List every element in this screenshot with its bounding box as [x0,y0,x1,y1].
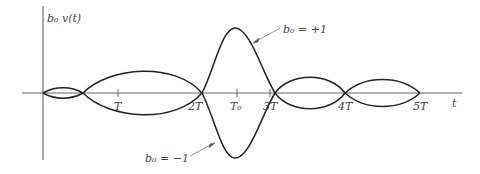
annotation-b0-plus-one: b₀ = +1 [283,23,327,36]
curve-lobe-0-lower [43,93,83,98]
curve-main-positive [202,28,275,93]
curve-lobe-4-lower [345,93,420,107]
tick-label-2T: 2T [188,100,202,113]
curve-lobe-0-upper [43,88,83,93]
diagram-canvas [0,0,480,174]
curve-lobe-4-upper [345,80,420,94]
arrow-negative [190,144,212,156]
arrow-positive-head [253,38,259,43]
tick-label-3T: 3T [263,100,277,113]
tick-label-4T: 4T [338,100,352,113]
annotation-b0-minus-one: b₀ = −1 [145,152,189,165]
x-axis-label: t [452,97,456,110]
tick-label-T0: T₀ [230,100,242,113]
curve-lobe-1-upper [83,71,202,93]
tick-label-5T: 5T [413,100,427,113]
curve-lobe-3-lower [275,93,345,109]
tick-label-T: T [114,100,121,113]
curve-lobe-1-lower [83,93,202,115]
curve-lobe-3-upper [275,77,345,93]
arrow-negative-head [209,143,215,148]
y-axis-label: b₀ v(t) [47,12,81,25]
pulse-response-diagram: b₀ v(t) t T 2T T₀ 3T 4T 5T b₀ = +1 b₀ = … [0,0,480,174]
